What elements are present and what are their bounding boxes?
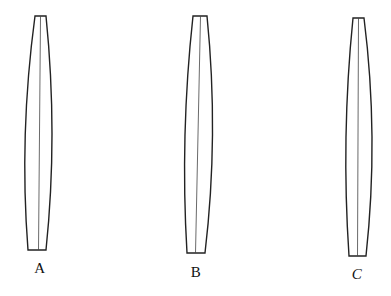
shape-c xyxy=(346,18,372,256)
shape-a-outline xyxy=(25,16,52,250)
label-a: A xyxy=(34,260,45,277)
shape-a xyxy=(25,16,52,250)
label-c: C xyxy=(352,266,363,283)
label-b: B xyxy=(191,264,202,281)
figure-canvas xyxy=(0,0,391,296)
shape-b-outline xyxy=(185,16,213,253)
shape-b xyxy=(185,16,213,253)
shape-c-outline xyxy=(346,18,372,256)
